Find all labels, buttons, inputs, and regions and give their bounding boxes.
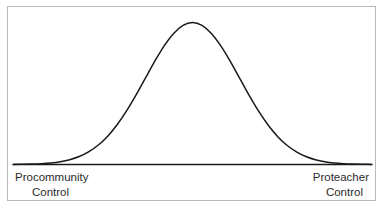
axis-label-left-line1: Procommunity <box>15 170 89 185</box>
axis-label-left: Procommunity Control <box>15 170 89 199</box>
axis-label-right-line1: Proteacher <box>313 170 369 185</box>
axis-label-left-line2: Control <box>15 185 89 200</box>
figure-caption-sliver: DISTRIBUTION OF TEACHERS <box>6 0 306 3</box>
axis-label-right: Proteacher Control <box>313 170 369 199</box>
figure-root: DISTRIBUTION OF TEACHERS Procommunity Co… <box>0 0 385 207</box>
axis-label-right-line2: Control <box>313 185 369 200</box>
